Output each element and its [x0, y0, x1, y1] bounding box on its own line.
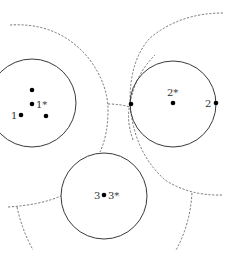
- label-1-star: 1*: [36, 99, 47, 110]
- point-2-star: [171, 101, 176, 106]
- point-2a: [129, 102, 134, 107]
- dashed-arc-bottom-left: [17, 207, 33, 250]
- point-1-star: [30, 102, 35, 107]
- label-3-star: 3*: [108, 190, 119, 201]
- point-1a: [30, 88, 35, 93]
- point-2: [214, 101, 219, 106]
- voronoi-circles-diagram: 1 1* 2* 2 3 3*: [0, 0, 233, 257]
- dashed-boundary-3-left: [8, 196, 61, 207]
- label-2: 2: [205, 98, 211, 109]
- label-1: 1: [11, 110, 17, 121]
- point-1: [19, 113, 24, 118]
- label-3: 3: [94, 190, 100, 201]
- dashed-arc-cluster-2-inner: [129, 55, 155, 140]
- dashed-arc-bottom-right: [176, 193, 192, 250]
- point-3: [102, 193, 107, 198]
- point-1b: [44, 114, 49, 119]
- dashed-arc-cluster-1: [10, 25, 108, 152]
- label-2-star: 2*: [167, 87, 178, 98]
- dashed-boundary-1-2: [108, 104, 130, 107]
